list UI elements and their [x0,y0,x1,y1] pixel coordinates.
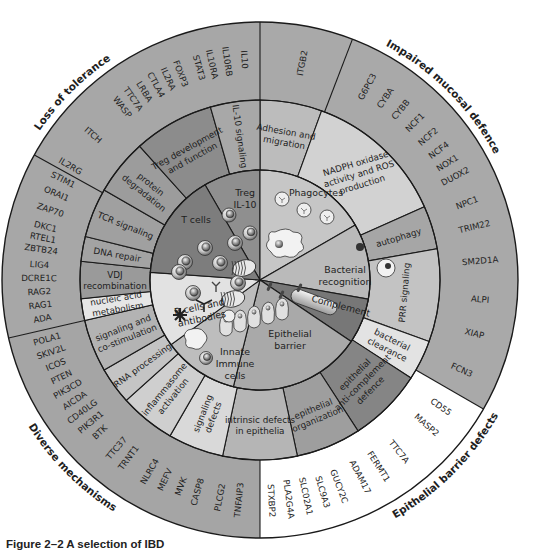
gene-label: LIG4 [29,259,49,270]
cell-type-label: Phagocytes [289,187,343,198]
gene-label: ALPI [471,293,490,305]
gene-label: RAG2 [27,286,51,297]
gene-label: STXBP2 [266,484,278,518]
ibd-genetics-wheel-diagram: Loss of toleranceImpaired mucosal defenc… [0,0,533,555]
cell-type-label: Epithelialbarrier [268,328,311,351]
cell-type-label: Bacterialrecognition [319,264,372,287]
gene-label: DCRE1C [21,273,57,283]
cell-type-label: T cells [180,214,211,225]
cell-type-label: TregIL-10 [233,187,256,210]
gene-label: IL10 [239,50,250,69]
figure-caption: Figure 2–2 A selection of IBD [6,538,164,550]
